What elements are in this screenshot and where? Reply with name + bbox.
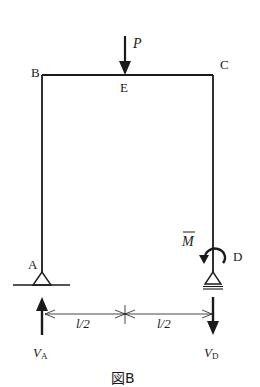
dimension-line	[45, 305, 212, 324]
label-c: C	[220, 57, 229, 72]
figure-caption: 図B	[111, 370, 135, 386]
label-a: A	[28, 257, 38, 272]
label-va: VA	[33, 345, 48, 361]
frame-diagram: P B C E A D M VA VD l/2 l/2	[0, 0, 260, 387]
roller-support-d	[203, 272, 223, 289]
label-b: B	[31, 65, 40, 80]
reaction-va-arrow	[36, 297, 48, 335]
moment-arrow	[199, 249, 225, 264]
dimension-label-left: l/2	[76, 316, 90, 331]
dimension-label-right: l/2	[157, 316, 171, 331]
reaction-vd-arrow	[207, 297, 219, 335]
label-moment: M	[181, 234, 195, 249]
label-p: P	[132, 36, 142, 51]
point-load-arrow	[119, 36, 131, 75]
pin-support-a	[13, 272, 70, 285]
label-d: D	[233, 249, 242, 264]
label-vd: VD	[204, 345, 219, 361]
label-e: E	[120, 80, 128, 95]
